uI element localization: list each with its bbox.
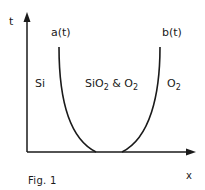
region-sio2-o2-label: SiO2 & O2	[85, 78, 138, 90]
o2-text: O	[167, 77, 176, 90]
sio2-text: SiO	[85, 77, 104, 90]
x-axis-label: x	[186, 170, 192, 182]
curve-a-of-t	[59, 47, 96, 152]
region-si-label: Si	[35, 78, 45, 90]
o2-subscript: 2	[133, 83, 138, 92]
curve-a-label: a(t)	[51, 27, 71, 39]
curve-b-of-t	[122, 47, 160, 152]
y-axis-arrow-icon	[24, 12, 31, 22]
y-axis-label: t	[9, 16, 13, 28]
curve-b-label: b(t)	[162, 27, 182, 39]
x-axis-arrow-icon	[186, 149, 196, 156]
figure-caption: Fig. 1	[28, 175, 57, 187]
amp-o2-text: & O	[109, 77, 133, 90]
o2-right-subscript: 2	[176, 83, 181, 92]
region-o2-label: O2	[167, 78, 181, 90]
